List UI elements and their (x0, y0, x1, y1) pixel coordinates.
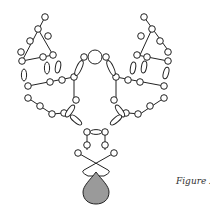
round-bead (84, 129, 91, 136)
thread-line (144, 17, 170, 53)
oval-bead (73, 60, 84, 77)
round-bead (165, 49, 172, 56)
teardrop-bead (83, 172, 109, 204)
round-bead (45, 33, 52, 40)
round-bead (161, 83, 168, 90)
round-bead (141, 14, 148, 21)
round-bead (103, 54, 110, 61)
round-bead (75, 150, 82, 157)
round-bead (134, 52, 141, 59)
oval-bead (162, 67, 170, 80)
round-bead (138, 33, 145, 40)
round-bead (102, 142, 109, 149)
oval-bead (44, 62, 49, 74)
round-bead (49, 111, 56, 118)
round-bead (111, 150, 118, 157)
round-bead (157, 38, 164, 45)
round-bead (27, 38, 34, 45)
round-bead (50, 52, 57, 59)
round-bead (42, 14, 49, 21)
round-bead (59, 77, 66, 84)
oval-bead (129, 62, 136, 75)
round-bead (165, 58, 172, 65)
round-bead (81, 54, 88, 61)
round-bead (84, 142, 91, 149)
oval-bead (54, 61, 61, 74)
thread-line (38, 29, 53, 55)
round-bead (18, 49, 25, 56)
figure-caption: Figure 2 (176, 176, 210, 186)
round-bead (149, 26, 156, 33)
round-bead (35, 26, 42, 33)
thread-line (137, 55, 168, 61)
round-bead (19, 58, 26, 65)
oval-bead (21, 69, 26, 81)
oval-bead (69, 114, 83, 127)
round-bead (25, 83, 32, 90)
round-bead (125, 77, 132, 84)
round-bead (137, 79, 144, 86)
thread-line (22, 55, 53, 61)
round-bead (25, 95, 32, 102)
round-bead (161, 95, 168, 102)
round-bead (37, 103, 44, 110)
round-bead (111, 97, 118, 104)
round-bead (144, 54, 151, 61)
round-bead (147, 103, 154, 110)
round-bead (40, 54, 47, 61)
oval-bead (109, 114, 123, 127)
round-bead (135, 111, 142, 118)
round-bead (47, 79, 54, 86)
round-bead (102, 129, 109, 136)
round-bead (73, 97, 80, 104)
oval-bead (140, 61, 147, 74)
large-center-bead (88, 50, 102, 64)
oval-bead (105, 60, 116, 77)
oval-bead (90, 130, 102, 135)
